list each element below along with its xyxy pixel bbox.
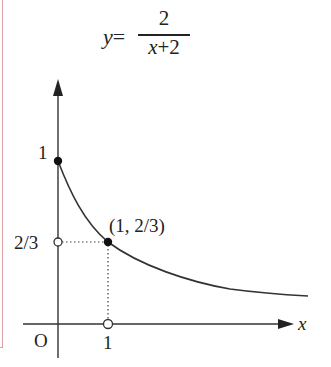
point-1-2-3 xyxy=(104,238,112,246)
label-point: (1, 2/3) xyxy=(109,216,165,235)
label-x-tick-one: 1 xyxy=(103,333,113,352)
label-origin: O xyxy=(34,331,48,350)
label-y-intercept: 1 xyxy=(38,143,48,162)
y-axis-arrow-icon xyxy=(53,79,63,96)
x-axis-arrow-icon xyxy=(278,319,294,329)
label-x-axis: x xyxy=(298,314,306,333)
label-y-two-thirds: 2/3 xyxy=(14,233,38,252)
graph xyxy=(0,0,331,367)
function-curve xyxy=(58,161,308,296)
point-y-intercept xyxy=(54,157,62,165)
open-point-y-two-thirds xyxy=(54,238,62,246)
open-point-x-one xyxy=(104,320,113,329)
